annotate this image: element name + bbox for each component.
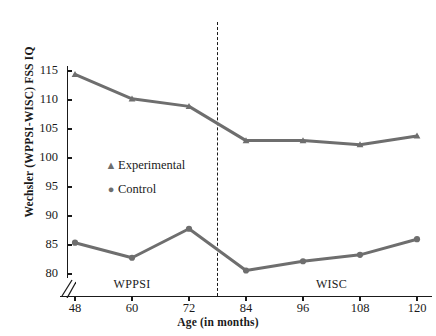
data-point-control-48: [72, 240, 78, 246]
circle-marker-icon: ●: [104, 183, 118, 195]
legend-item-control: ●Control: [104, 181, 156, 197]
chart-canvas: Wechsler (WPPSI-WISC) FSS IQ Age (in mon…: [0, 0, 436, 336]
legend-label-control: Control: [118, 182, 156, 196]
series-line-experimental: [75, 74, 417, 144]
triangle-marker-icon: ▲: [104, 159, 118, 171]
data-point-control-108: [357, 252, 363, 258]
plot-lines: [0, 0, 436, 336]
legend-item-experimental: ▲Experimental: [104, 157, 185, 173]
data-point-control-96: [300, 258, 306, 264]
series-line-control: [75, 229, 417, 271]
data-point-control-60: [129, 255, 135, 261]
data-point-control-72: [186, 226, 192, 232]
legend-label-experimental: Experimental: [118, 158, 185, 172]
data-point-control-120: [414, 236, 420, 242]
data-point-control-84: [243, 267, 249, 273]
